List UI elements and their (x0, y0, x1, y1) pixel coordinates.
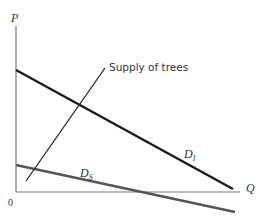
di-label-sub: I (192, 154, 196, 163)
supply-demand-diagram: P Q 0 Supply of trees DI DS (0, 0, 266, 224)
ds-label: DS (79, 166, 93, 182)
di-label: DI (183, 147, 196, 163)
di-label-main: D (183, 147, 193, 161)
x-axis-label: Q (246, 181, 255, 195)
ds-label-sub: S (89, 173, 93, 182)
y-axis-label: P (10, 11, 19, 25)
ds-label-main: D (79, 166, 89, 180)
supply-curve-label: Supply of trees (109, 61, 188, 73)
origin-label: 0 (8, 197, 13, 208)
supply-curve (26, 68, 105, 181)
